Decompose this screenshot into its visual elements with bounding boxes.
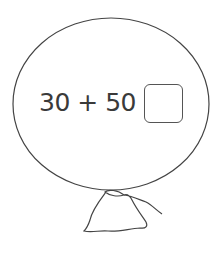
balloon-drawing (0, 0, 218, 254)
balloon-string (84, 192, 162, 232)
balloon-knot (105, 190, 124, 196)
answer-box[interactable] (144, 84, 183, 123)
